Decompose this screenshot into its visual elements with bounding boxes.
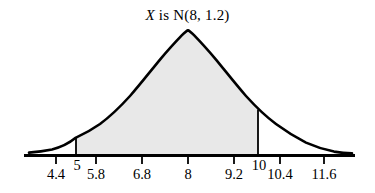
axis-tick-label-10-4: 10.4 bbox=[267, 166, 292, 182]
axis-tick-label-8: 8 bbox=[184, 166, 191, 182]
axis-tick-label-6-8: 6.8 bbox=[133, 166, 151, 182]
axis-tick-label-9-2: 9.2 bbox=[225, 166, 243, 182]
boundary-label-5: 5 bbox=[73, 157, 80, 173]
shaded-area bbox=[76, 30, 258, 155]
distribution-plot bbox=[0, 0, 375, 193]
axis-tick-label-4-4: 4.4 bbox=[47, 166, 65, 182]
boundary-label-10: 10 bbox=[252, 157, 267, 173]
normal-distribution-figure: X is N(8, 1.2) 4.4 5.8 6.8 8 9.2 10.4 11… bbox=[0, 0, 375, 193]
axis-tick-label-11-6: 11.6 bbox=[312, 166, 337, 182]
axis-tick-label-5-8: 5.8 bbox=[87, 166, 105, 182]
